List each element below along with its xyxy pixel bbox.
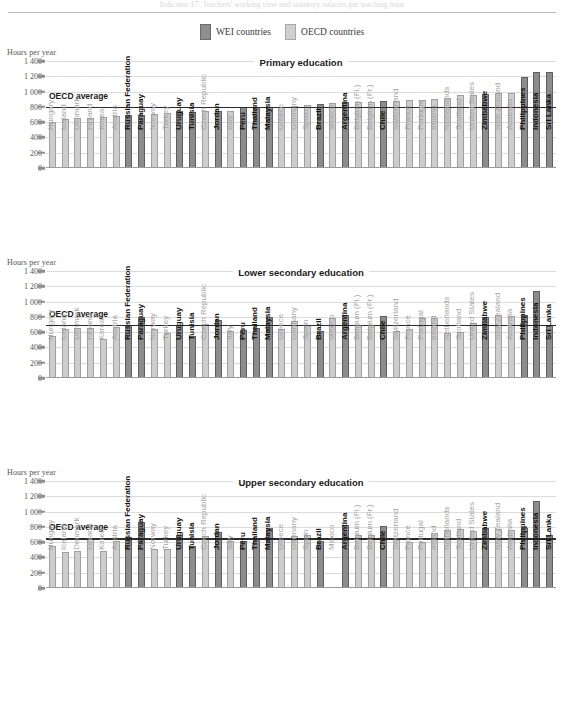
bar: [49, 546, 56, 588]
category-label: Uruguay: [175, 98, 183, 130]
y-axis-tick-label: 200: [8, 568, 42, 577]
y-axis-tick-label: 200: [8, 358, 42, 367]
category-label: Mexico: [328, 315, 336, 340]
category-label: Brazil: [315, 318, 323, 340]
category-label: Switzerland: [392, 299, 400, 340]
category-label: Zimbabwe: [481, 511, 489, 550]
y-axis-tick-mark: [38, 90, 45, 93]
y-axis-tick-label: 1 400: [8, 57, 42, 66]
category-label: Greece: [277, 524, 285, 550]
y-axis-tick-label: 1 000: [8, 507, 42, 516]
category-label: France: [404, 315, 412, 340]
category-label: Korea: [98, 319, 106, 340]
y-axis-tick-label: 1 400: [8, 477, 42, 486]
bar: [164, 549, 171, 588]
category-label: Scotland: [455, 519, 463, 550]
category-label: Jordan: [213, 103, 221, 130]
category-label: Paraguay: [137, 304, 145, 340]
category-label: Turkey: [162, 526, 170, 550]
x-axis-3: [46, 587, 556, 588]
category-label: Finland: [86, 524, 94, 550]
y-axis-tick-mark: [38, 361, 45, 364]
legend-item-oecd: OECD countries: [285, 24, 364, 40]
y-axis-tick-mark: [38, 121, 45, 124]
category-label: Spain: [302, 110, 310, 130]
category-label: Netherlands: [443, 297, 451, 340]
y-axis-tick-mark: [38, 106, 45, 109]
y-axis-tick-mark: [38, 556, 45, 559]
category-label: New Zealand: [494, 83, 502, 130]
y-axis-tick-mark: [38, 285, 45, 288]
category-label: Paraguay: [137, 514, 145, 550]
category-label: Czech Republic: [200, 74, 208, 130]
category-label: Jordan: [213, 313, 221, 340]
cut-header-text: Indicator 17: Teachers' working time and…: [0, 0, 564, 9]
category-label: Sri Lanka: [545, 514, 553, 550]
bar: [151, 549, 158, 588]
category-labels-2: HungaryIcelandDenmarkFinlandKoreaAustria…: [46, 258, 556, 340]
category-label: Australia: [506, 309, 514, 340]
chart-legend: WEI countries OECD countries: [0, 24, 564, 40]
category-label: Philippines: [519, 297, 527, 340]
category-label: Norway: [149, 103, 157, 130]
y-axis-tick-mark: [38, 300, 45, 303]
y-axis-tick-label: 400: [8, 553, 42, 562]
category-label: Netherlands: [443, 507, 451, 550]
bar: [559, 284, 564, 378]
category-label: New Zealand: [494, 293, 502, 340]
category-label: Tunisia: [188, 523, 196, 550]
y-axis-tick-label: 600: [8, 328, 42, 337]
category-label: Peru: [239, 112, 247, 130]
category-label: Australia: [506, 519, 514, 550]
bar: [100, 551, 107, 588]
y-axis-tick-mark: [38, 510, 45, 513]
y-axis-tick-label: 0: [8, 584, 42, 593]
category-label: Indonesia: [532, 303, 540, 340]
y-axis-tick-mark: [38, 495, 45, 498]
y-axis-tick-label: 1 400: [8, 267, 42, 276]
y-axis-tick-mark: [38, 60, 45, 63]
bar: [444, 333, 451, 378]
header-divider: [8, 12, 556, 13]
legend-label-wei: WEI countries: [216, 27, 271, 37]
legend-swatch-wei-icon: [200, 24, 211, 40]
category-label: Australia: [506, 99, 514, 130]
bar: [100, 339, 107, 378]
category-label: Spain: [302, 530, 310, 550]
category-label: Zimbabwe: [481, 91, 489, 130]
y-axis-tick-mark: [38, 331, 45, 334]
category-label: Russian Federation: [124, 56, 132, 130]
y-axis-tick-mark: [38, 587, 45, 590]
y-axis-tick-label: 0: [8, 374, 42, 383]
bar: [74, 551, 81, 588]
category-label: Portugal: [417, 100, 425, 130]
category-label: Portugal: [417, 310, 425, 340]
category-label: Denmark: [73, 98, 81, 130]
category-label: Chile: [379, 530, 387, 550]
category-label: Chile: [379, 110, 387, 130]
category-label: Belgium (Fr.): [366, 294, 374, 340]
bar: [62, 552, 69, 588]
category-label: Scotland: [455, 99, 463, 130]
category-label: Austria: [111, 105, 119, 130]
category-label: Belgium (Fl.): [353, 295, 361, 340]
category-label: Thailand: [251, 97, 259, 130]
category-label: Netherlands: [443, 87, 451, 130]
category-label: United States: [468, 292, 476, 340]
y-axis-tick-mark: [38, 136, 45, 139]
category-label: Malaysia: [264, 97, 272, 130]
category-label: Italy: [226, 535, 234, 550]
category-label: Ireland: [430, 106, 438, 130]
bar: [559, 494, 564, 588]
category-label: Portugal: [417, 520, 425, 550]
category-label: Ireland: [430, 316, 438, 340]
category-label: Mexico: [328, 525, 336, 550]
y-axis-tick-label: 400: [8, 343, 42, 352]
category-label: Switzerland: [392, 509, 400, 550]
category-label: Philippines: [519, 507, 527, 550]
category-label: Denmark: [73, 308, 81, 340]
legend-item-wei: WEI countries: [200, 24, 271, 40]
category-label: Argentina: [341, 93, 349, 130]
y-axis-tick-mark: [38, 151, 45, 154]
y-axis-tick-label: 200: [8, 148, 42, 157]
